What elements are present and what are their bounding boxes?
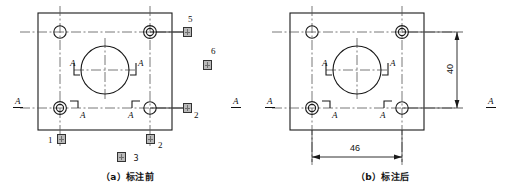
datum-letter-center-left: A	[70, 58, 76, 68]
figure-number-value: 3	[133, 154, 138, 163]
tofu-glyph	[146, 134, 155, 144]
datum-bracket-center-right	[382, 63, 388, 75]
arrowhead-horizontal-left	[312, 155, 320, 160]
figure-panel-a: A A A A A A 5 6 2 1 2 3 （a）标注前	[0, 0, 255, 196]
arrowhead-vertical-top	[455, 32, 460, 40]
datum-letter-center-left: A	[322, 58, 328, 68]
panel-b-caption: （b）标注后	[255, 170, 510, 183]
figure-number: 3	[0, 152, 255, 163]
tofu-glyph	[117, 152, 126, 162]
callout-6-glyph	[203, 60, 212, 71]
callout-2-bottom-number: 2	[158, 140, 163, 150]
callout-5-number: 5	[188, 14, 193, 24]
arrowhead-horizontal-right	[394, 155, 402, 160]
dimension-value-vertical: 40	[445, 62, 455, 76]
datum-letter-bottom-left: A	[332, 110, 338, 120]
datum-letter-center-right: A	[138, 58, 144, 68]
callout-5-glyph	[183, 27, 192, 38]
tofu-glyph	[183, 27, 192, 37]
tofu-glyph	[57, 134, 66, 144]
callout-1-number: 1	[48, 135, 53, 145]
datum-symbol-right: A	[486, 96, 496, 108]
plate-outline	[290, 13, 424, 130]
callout-2-right-glyph	[183, 103, 192, 114]
datum-letter-bottom-right: A	[128, 110, 134, 120]
datum-symbol-left: A	[13, 96, 23, 108]
datum-letter-bottom-left: A	[80, 110, 86, 120]
datum-bracket-bottom-right	[132, 101, 140, 108]
datum-symbol-left: A	[265, 96, 275, 108]
datum-letter-center-right: A	[390, 58, 396, 68]
datum-bracket-bottom-left	[70, 101, 78, 108]
figure-number-glyph	[117, 153, 126, 163]
datum-symbol-right: A	[231, 96, 241, 108]
callout-2-right-number: 2	[194, 110, 199, 120]
figure-panel-b: A A A A A A 40 46 （b）标注后	[255, 0, 510, 196]
panel-a-drawing	[0, 0, 255, 196]
tofu-glyph	[183, 103, 192, 113]
datum-bracket-center-right	[130, 63, 136, 75]
callout-1-glyph	[57, 134, 66, 145]
arrowhead-vertical-bottom	[455, 100, 460, 108]
tofu-glyph	[203, 60, 212, 70]
panel-a-caption: （a）标注前	[0, 170, 255, 183]
datum-bracket-bottom-right	[384, 101, 392, 108]
callout-2-bottom-glyph	[146, 134, 155, 145]
callout-6-number: 6	[211, 46, 216, 56]
plate-outline	[38, 13, 172, 130]
datum-letter-bottom-right: A	[380, 110, 386, 120]
datum-bracket-bottom-left	[322, 101, 330, 108]
dimension-value-horizontal: 46	[350, 143, 360, 153]
panel-b-drawing	[255, 0, 510, 196]
